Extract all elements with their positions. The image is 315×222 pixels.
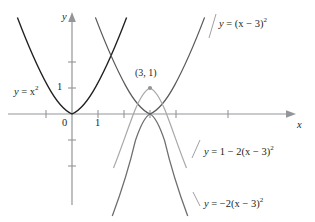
y-axis <box>68 12 76 205</box>
parabola-transformations-figure: y x 0 1 1 (3, 1) y = x2 y = (x − 3)2 y =… <box>0 0 315 222</box>
origin-label: 0 <box>62 118 67 129</box>
curve-label-exponent: 2 <box>270 144 274 152</box>
vertex-point-marker <box>148 86 152 90</box>
y-axis-label: y <box>62 12 67 23</box>
curve-y-equals-1-minus-2x-minus-3-squared <box>114 88 187 168</box>
x-axis <box>8 110 296 118</box>
curve-label-eq: = (x − 3) <box>224 18 264 29</box>
graph-canvas <box>0 0 315 222</box>
point-label-3-1: (3, 1) <box>135 68 157 78</box>
leader-line-flipped <box>193 192 200 206</box>
curve-label-y-equals-1-minus-2x-minus-3-squared: y = 1 − 2(x − 3)2 <box>204 145 274 157</box>
curve-y-equals-x-minus-3-squared <box>95 17 204 114</box>
curve-label-y-equals-x-minus-3-squared: y = (x − 3)2 <box>219 17 267 29</box>
leader-line-shifted <box>209 14 216 38</box>
curve-label-y-equals-x-squared: y = x2 <box>14 85 39 97</box>
curve-label-eq: = 1 − 2(x − 3) <box>209 146 271 157</box>
y-tick-label-1: 1 <box>57 82 62 93</box>
leader-line-flipped-shifted <box>192 140 200 158</box>
curve-label-exponent: 2 <box>264 16 268 24</box>
x-tick-label-1: 1 <box>95 118 100 129</box>
curve-label-eq: = x <box>19 86 35 97</box>
curve-label-exponent: 2 <box>260 196 264 204</box>
curve-label-y-equals-minus-2x-minus-3-squared: y = −2(x − 3)2 <box>204 197 263 209</box>
curve-label-exponent: 2 <box>35 84 39 92</box>
curve-y-equals-minus-2x-minus-3-squared <box>112 114 187 216</box>
curve-label-eq: = −2(x − 3) <box>209 198 260 209</box>
x-axis-label: x <box>297 120 302 131</box>
